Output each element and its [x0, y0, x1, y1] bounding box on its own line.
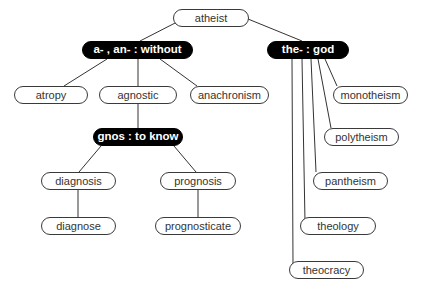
node-diagnosis: diagnosis: [41, 172, 116, 190]
edge-the_god-to-monotheism: [325, 59, 337, 86]
diagram-edges: [0, 0, 421, 295]
node-monotheism: monotheism: [333, 86, 408, 104]
node-atropy: atropy: [14, 86, 88, 104]
word-root-diagram: atheist a- , an- : without the- : god at…: [0, 0, 421, 295]
edge-the_god-to-theocracy: [292, 59, 293, 266]
node-root-gnos-to-know: gnos : to know: [93, 128, 183, 146]
edge-the_god-to-pantheism: [311, 59, 316, 172]
edge-a_an_without-to-anachronism: [160, 59, 197, 86]
edge-atheist-to-the_god: [248, 19, 302, 41]
node-diagnose: diagnose: [41, 217, 116, 235]
node-theocracy: theocracy: [289, 261, 364, 279]
node-prognosticate: prognosticate: [155, 217, 241, 235]
node-agnostic: agnostic: [99, 86, 177, 104]
node-atheist: atheist: [173, 9, 249, 27]
edge-atheist-to-a_an_without: [140, 21, 179, 41]
node-prognosis: prognosis: [160, 172, 236, 190]
edge-the_god-to-polytheism: [318, 59, 331, 128]
edge-gnos_to_know-to-diagnosis: [79, 146, 101, 172]
node-pantheism: pantheism: [313, 172, 388, 190]
edge-gnos_to_know-to-prognosis: [174, 146, 196, 172]
node-anachronism: anachronism: [190, 86, 269, 104]
node-prefix-a-an-without: a- , an- : without: [82, 41, 193, 59]
node-theology: theology: [300, 217, 376, 235]
node-root-the-god: the- : god: [267, 41, 349, 59]
edge-a_an_without-to-atropy: [64, 59, 107, 86]
edge-the_god-to-theology: [302, 59, 305, 222]
node-polytheism: polytheism: [324, 128, 399, 146]
